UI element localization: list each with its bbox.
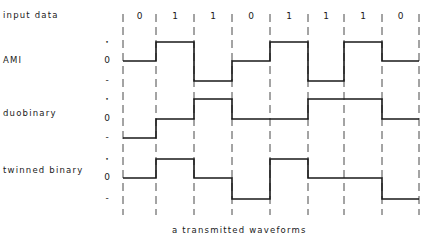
waveform-duobinary <box>123 99 419 138</box>
waveform-diagram <box>0 0 426 249</box>
waveform-twinned-binary <box>123 159 419 199</box>
waveform-ami <box>123 42 419 81</box>
